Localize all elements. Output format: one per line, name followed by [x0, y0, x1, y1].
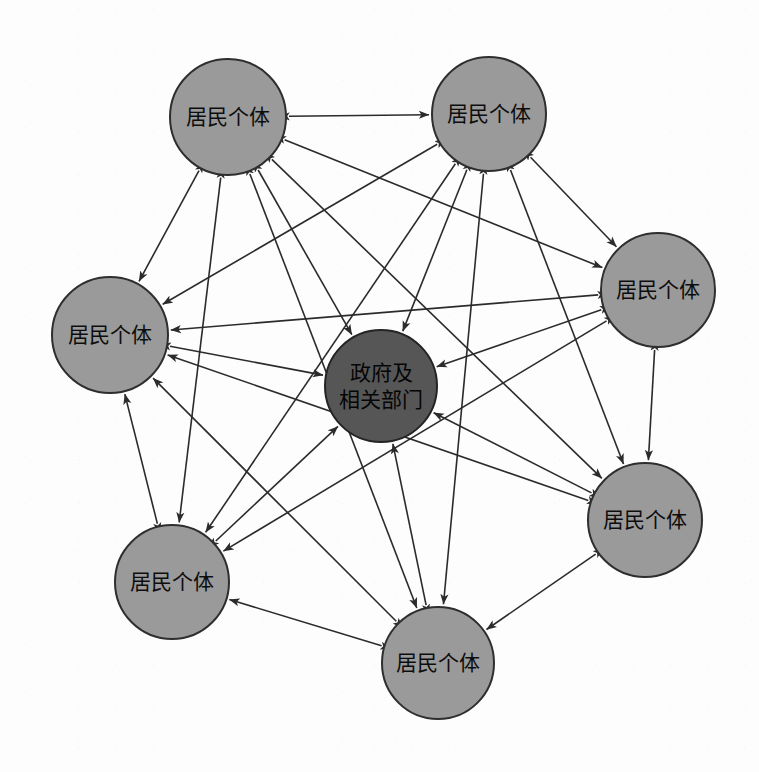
edge-r2-r3 — [531, 157, 617, 246]
nodes-layer: 居民个体居民个体居民个体居民个体居民个体居民个体居民个体政府及相关部门 — [52, 57, 715, 719]
resident-node-shape[interactable] — [52, 277, 168, 393]
government-node-shape[interactable] — [325, 330, 437, 442]
edge-r1-g1 — [258, 170, 352, 335]
node-r4-resident[interactable]: 居民个体 — [588, 463, 702, 577]
node-r6-resident[interactable]: 居民个体 — [115, 525, 229, 639]
edge-r1-r3 — [285, 140, 603, 268]
edge-r2-r5 — [443, 174, 483, 605]
edge-r2-r4 — [511, 170, 624, 464]
resident-node-shape[interactable] — [432, 57, 546, 171]
network-diagram-canvas: 居民个体居民个体居民个体居民个体居民个体居民个体居民个体政府及相关部门 — [0, 0, 759, 772]
edge-r1-r2 — [289, 115, 429, 117]
resident-node-shape[interactable] — [601, 233, 715, 347]
node-g1-government[interactable]: 政府及相关部门 — [325, 330, 437, 442]
edge-r4-r5 — [487, 554, 596, 629]
node-r5-resident[interactable]: 居民个体 — [382, 607, 494, 719]
edge-r5-r6 — [229, 599, 381, 645]
resident-node-shape[interactable] — [170, 59, 286, 175]
edge-r3-r7 — [171, 295, 598, 330]
edge-r1-r7 — [139, 171, 199, 282]
edge-r7-g1 — [170, 346, 323, 375]
resident-node-shape[interactable] — [588, 463, 702, 577]
network-graph: 居民个体居民个体居民个体居民个体居民个体居民个体居民个体政府及相关部门 — [0, 0, 759, 772]
node-r1-resident[interactable]: 居民个体 — [170, 59, 286, 175]
node-r3-resident[interactable]: 居民个体 — [601, 233, 715, 347]
node-r7-resident[interactable]: 居民个体 — [52, 277, 168, 393]
edge-r5-g1 — [393, 444, 426, 605]
edge-r1-r4 — [272, 159, 602, 478]
edge-r6-g1 — [216, 426, 338, 541]
edge-r3-r4 — [648, 350, 654, 460]
resident-node-shape[interactable] — [115, 525, 229, 639]
edge-r6-r7 — [125, 394, 158, 524]
node-r2-resident[interactable]: 居民个体 — [432, 57, 546, 171]
resident-node-shape[interactable] — [382, 607, 494, 719]
